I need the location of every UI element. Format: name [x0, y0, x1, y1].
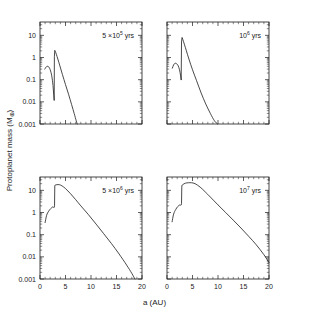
x-tick-label: 0 — [38, 283, 42, 290]
x-tick-label: 10 — [214, 283, 222, 290]
x-tick-label: 0 — [165, 283, 169, 290]
panel-bottom-left: 1010.10.010.001051015205 ×106 yrs — [18, 177, 146, 290]
annotation-units: yrs — [123, 32, 135, 40]
x-tick-label: 20 — [265, 283, 273, 290]
curve-top-left-spike-and-decay — [54, 50, 77, 124]
annotation-base: 10 — [112, 32, 120, 39]
annotation-base: 10 — [239, 187, 247, 194]
figure-container: 1010.10.010.0015 ×105 yrs106 yrs1010.10.… — [0, 0, 312, 316]
annotation-units: yrs — [123, 187, 135, 195]
y-tick-label: 0.1 — [26, 76, 36, 83]
y-tick-label: 10 — [28, 187, 36, 194]
x-tick-label: 5 — [191, 283, 195, 290]
panel-top-left: 1010.10.010.0015 ×105 yrs — [18, 22, 142, 128]
y-tick-label: 1 — [32, 54, 36, 61]
y-axis-title-group: Protoplanet mass (M⊕) — [5, 109, 15, 191]
x-tick-label: 5 — [64, 283, 68, 290]
panel-top-right: 106 yrs — [167, 22, 269, 124]
panel-time-label: 107 yrs — [239, 185, 261, 195]
annotation-units: yrs — [250, 187, 262, 195]
protoplanet-mass-figure: 1010.10.010.0015 ×105 yrs106 yrs1010.10.… — [0, 0, 312, 316]
y-tick-label: 0.1 — [26, 231, 36, 238]
panel-time-label: 5 ×105 yrs — [102, 30, 134, 40]
annotation-units: yrs — [250, 32, 262, 40]
y-tick-label: 1 — [32, 209, 36, 216]
curve-bottom-right-rise-and-decay — [172, 183, 269, 263]
y-tick-label: 0.001 — [18, 276, 36, 283]
x-tick-label: 20 — [138, 283, 146, 290]
y-title-close: ) — [5, 109, 14, 112]
curve-top-right-spike-and-decay — [181, 37, 217, 124]
y-axis-title-svg: Protoplanet mass (M⊕) — [5, 109, 15, 191]
y-tick-label: 0.01 — [22, 253, 36, 260]
panel-time-label: 106 yrs — [239, 30, 261, 40]
y-tick-label: 0.01 — [22, 98, 36, 105]
y-tick-label: 0.001 — [18, 121, 36, 128]
curve-top-right-inner-branch — [172, 63, 181, 79]
x-tick-label: 15 — [240, 283, 248, 290]
panel-bottom-right: 05101520107 yrs — [165, 177, 273, 290]
x-tick-label: 15 — [113, 283, 121, 290]
curve-top-left-inner-branch — [45, 66, 54, 100]
panel-time-label: 5 ×106 yrs — [102, 185, 134, 195]
curve-bottom-left-rise-and-decay — [45, 185, 135, 279]
x-tick-label: 10 — [87, 283, 95, 290]
y-title-main: Protoplanet mass (M — [5, 117, 14, 191]
annotation-base: 10 — [112, 187, 120, 194]
x-axis-title-svg: a (AU) — [143, 298, 166, 307]
annotation-base: 10 — [239, 32, 247, 39]
y-tick-label: 10 — [28, 32, 36, 39]
